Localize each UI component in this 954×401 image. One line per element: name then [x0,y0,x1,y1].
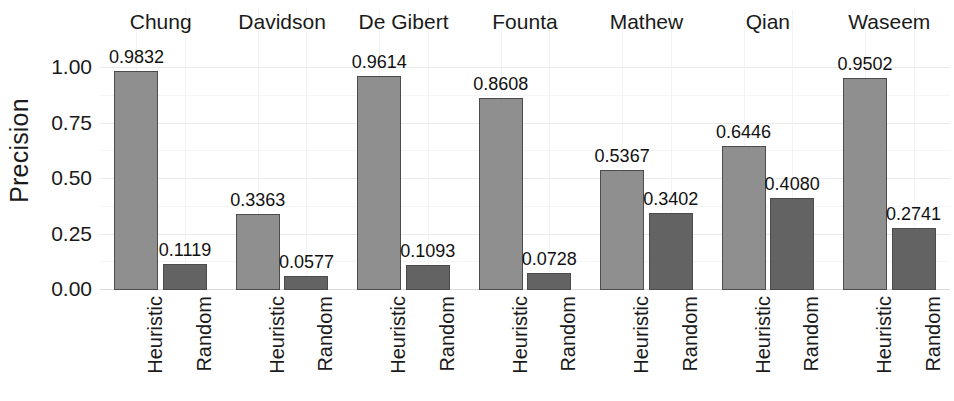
bar-value-label: 0.5367 [595,146,650,167]
x-tick-label-heuristic: Heuristic [144,296,167,374]
facet-panel: Waseem0.95020.2741 [829,10,950,290]
facet-title: Waseem [829,10,950,34]
bar-heuristic [722,146,766,290]
bar-value-label: 0.1119 [159,240,211,261]
x-tick-label-heuristic: Heuristic [509,296,532,374]
x-tick-label-random: Random [314,296,337,372]
facet-title: Qian [707,10,828,34]
x-axis-tick-labels: HeuristicRandomHeuristicRandomHeuristicR… [100,292,950,401]
facet-panel: De Gibert0.96140.1093 [343,10,464,290]
facet-title: De Gibert [343,10,464,34]
facet-panel: Founta0.86080.0728 [464,10,585,290]
bar-random [527,273,571,290]
bar-value-label: 0.2741 [886,204,941,225]
x-tick-label-random: Random [922,296,945,372]
x-tick-label-heuristic: Heuristic [630,296,653,374]
facet-title: Chung [100,10,221,34]
bar-value-label: 0.3402 [643,189,698,210]
bar-heuristic [600,170,644,290]
y-axis-tick-labels: 0.000.250.500.751.00 [34,0,96,401]
precision-bar-chart-figure: Precision 0.000.250.500.751.00 Chung0.98… [0,0,954,401]
bar-heuristic [114,71,158,290]
x-tick-label-random: Random [557,296,580,372]
x-tick-label-heuristic: Heuristic [266,296,289,374]
bar-value-label: 0.0728 [522,249,577,270]
bar-value-label: 0.0577 [279,252,334,273]
bar-value-label: 0.9502 [837,54,892,75]
y-tick-label: 0.75 [51,111,92,135]
facet-panel: Davidson0.33630.0577 [221,10,342,290]
bar-value-label: 0.8608 [473,74,528,95]
bar-random [649,213,693,290]
bar-value-label: 0.9614 [352,52,407,73]
y-tick-label: 0.00 [51,277,92,301]
bar-random [284,276,328,290]
plot-panel: Chung0.98320.1119Davidson0.33630.0577De … [100,10,950,290]
y-axis-title-text: Precision [5,98,34,203]
bar-value-label: 0.6446 [716,122,771,143]
facet-panel: Chung0.98320.1119 [100,10,221,290]
facet-panel: Qian0.64460.4080 [707,10,828,290]
bar-random [770,198,814,290]
bar-heuristic [479,98,523,290]
y-tick-label: 1.00 [51,55,92,79]
bar-heuristic [357,76,401,290]
x-tick-label-random: Random [679,296,702,372]
plot-area: Chung0.98320.1119Davidson0.33630.0577De … [100,10,950,290]
bar-random [163,264,207,290]
facet-title: Founta [464,10,585,34]
facet-title: Mathew [586,10,707,34]
y-axis-title: Precision [2,0,36,300]
bar-heuristic [843,78,887,290]
x-tick-label-random: Random [436,296,459,372]
bar-value-label: 0.3363 [230,190,285,211]
facet-panel: Mathew0.53670.3402 [586,10,707,290]
x-tick-label-heuristic: Heuristic [873,296,896,374]
bar-value-label: 0.9832 [109,47,164,68]
facet-title: Davidson [221,10,342,34]
bar-random [406,265,450,290]
x-tick-label-heuristic: Heuristic [752,296,775,374]
x-tick-label-heuristic: Heuristic [387,296,410,374]
bar-value-label: 0.1093 [400,241,455,262]
x-tick-label-random: Random [800,296,823,372]
bar-value-label: 0.4080 [765,174,820,195]
bar-heuristic [236,214,280,290]
y-tick-label: 0.25 [51,222,92,246]
y-tick-label: 0.50 [51,166,92,190]
x-tick-label-random: Random [193,296,216,372]
bar-random [892,228,936,290]
